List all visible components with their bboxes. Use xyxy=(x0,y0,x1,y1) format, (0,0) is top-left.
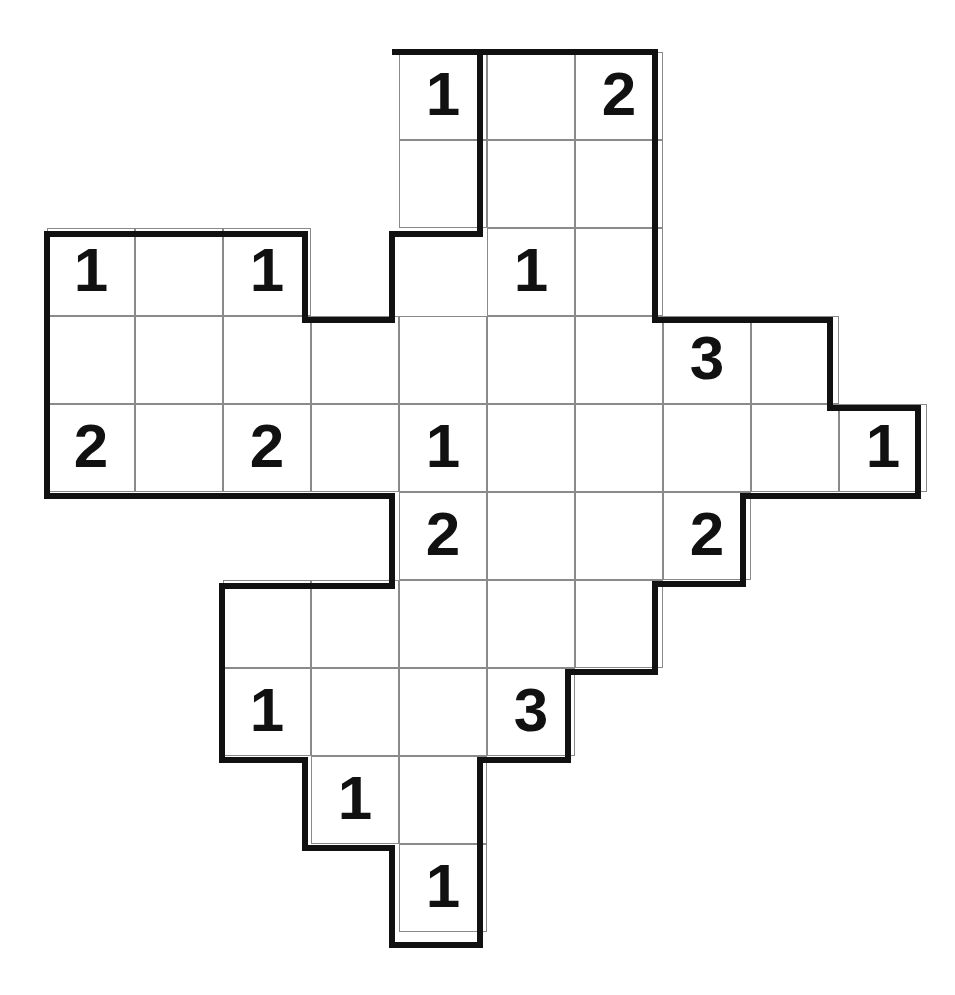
grid-cell[interactable] xyxy=(311,580,399,668)
grid-cell[interactable]: 2 xyxy=(663,492,751,580)
grid-cell[interactable]: 1 xyxy=(223,668,311,756)
cell-clue-number: 1 xyxy=(250,239,284,301)
grid-cell[interactable] xyxy=(487,52,575,140)
grid-cell[interactable] xyxy=(487,316,575,404)
cell-clue-number: 2 xyxy=(426,503,460,565)
grid-cell[interactable] xyxy=(399,580,487,668)
grid-cell[interactable] xyxy=(575,404,663,492)
grid-cell[interactable] xyxy=(311,668,399,756)
grid-cell[interactable]: 1 xyxy=(399,52,487,140)
grid-cell[interactable]: 1 xyxy=(399,404,487,492)
grid-cell[interactable] xyxy=(487,140,575,228)
grid-cell[interactable] xyxy=(47,316,135,404)
grid-cell[interactable] xyxy=(223,580,311,668)
grid-cell[interactable] xyxy=(311,404,399,492)
grid-cell[interactable] xyxy=(575,580,663,668)
grid-cell[interactable] xyxy=(399,668,487,756)
grid-cell[interactable] xyxy=(575,228,663,316)
grid-cell[interactable] xyxy=(487,404,575,492)
grid-cells-layer: 1211132211221311 xyxy=(0,0,955,995)
grid-cell[interactable]: 2 xyxy=(575,52,663,140)
grid-cell[interactable]: 3 xyxy=(487,668,575,756)
cell-clue-number: 1 xyxy=(514,239,548,301)
cell-clue-number: 1 xyxy=(74,239,108,301)
grid-cell[interactable]: 1 xyxy=(399,844,487,932)
cell-clue-number: 1 xyxy=(426,855,460,917)
grid-cell[interactable]: 1 xyxy=(311,756,399,844)
grid-cell[interactable] xyxy=(575,492,663,580)
grid-cell[interactable] xyxy=(487,492,575,580)
cell-clue-number: 3 xyxy=(514,679,548,741)
grid-cell[interactable] xyxy=(223,316,311,404)
grid-cell[interactable]: 2 xyxy=(47,404,135,492)
grid-cell[interactable]: 2 xyxy=(223,404,311,492)
grid-cell[interactable]: 2 xyxy=(399,492,487,580)
grid-cell[interactable] xyxy=(399,756,487,844)
cell-clue-number: 3 xyxy=(690,327,724,389)
grid-cell[interactable] xyxy=(575,140,663,228)
grid-cell[interactable] xyxy=(135,316,223,404)
grid-cell[interactable] xyxy=(751,404,839,492)
grid-cell[interactable]: 3 xyxy=(663,316,751,404)
grid-cell[interactable] xyxy=(751,316,839,404)
grid-cell[interactable] xyxy=(311,316,399,404)
grid-cell[interactable]: 1 xyxy=(487,228,575,316)
grid-cell[interactable]: 1 xyxy=(47,228,135,316)
grid-cell[interactable] xyxy=(487,580,575,668)
cell-clue-number: 2 xyxy=(250,415,284,477)
cell-clue-number: 2 xyxy=(74,415,108,477)
grid-cell[interactable] xyxy=(135,228,223,316)
cell-clue-number: 1 xyxy=(866,415,900,477)
cell-clue-number: 2 xyxy=(602,63,636,125)
puzzle-board: 1211132211221311 xyxy=(0,0,955,995)
cell-clue-number: 1 xyxy=(250,679,284,741)
grid-cell[interactable] xyxy=(135,404,223,492)
cell-clue-number: 2 xyxy=(690,503,724,565)
grid-cell[interactable] xyxy=(575,316,663,404)
grid-cell[interactable] xyxy=(663,404,751,492)
cell-clue-number: 1 xyxy=(426,63,460,125)
grid-cell[interactable] xyxy=(399,316,487,404)
grid-cell[interactable]: 1 xyxy=(223,228,311,316)
grid-cell[interactable]: 1 xyxy=(839,404,927,492)
cell-clue-number: 1 xyxy=(426,415,460,477)
grid-cell[interactable] xyxy=(399,140,487,228)
cell-clue-number: 1 xyxy=(338,767,372,829)
